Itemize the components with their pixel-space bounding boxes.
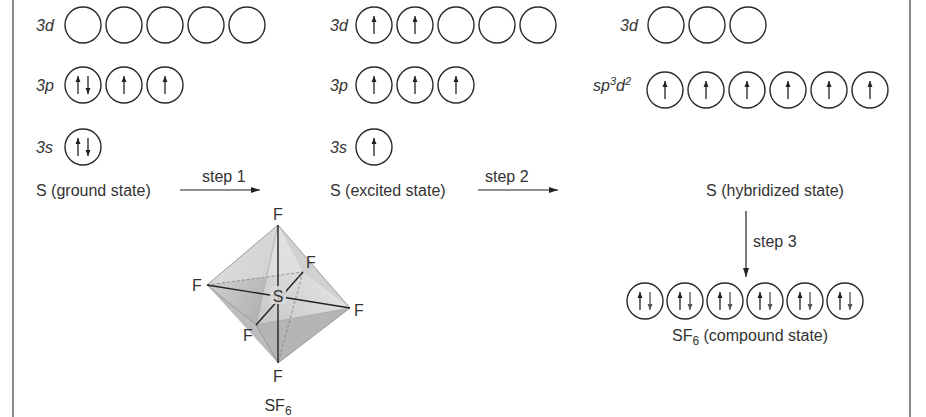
atom-fluorine-back: F [306,254,316,271]
orbital-box-empty [438,7,474,43]
orbital-box-up [647,72,683,108]
orbital-box-updown [65,67,101,103]
atom-fluorine-front: F [243,327,253,344]
orbital-box-updown [707,283,743,319]
orbital-box-empty [229,7,265,43]
orbital-box-updown [787,283,823,319]
orbital-label-3s: 3s [330,139,347,156]
atom-sulfur: S [273,288,284,305]
orbital-label-3s: 3s [36,139,53,156]
excited-orbitals [356,7,556,165]
orbital-label-sp3d2: sp3d2 [593,75,631,94]
ground-orbitals [65,7,265,165]
orbital-label-3d: 3d [36,17,55,34]
orbital-box-updown [65,129,101,165]
orbital-box-up [147,67,183,103]
orbital-box-updown [747,283,783,319]
atom-fluorine-bottom: F [273,368,283,385]
orbital-box-empty [730,7,766,43]
orbital-box-up [688,72,724,108]
orbital-box-empty [479,7,515,43]
orbital-label-3p: 3p [330,77,348,94]
orbital-box-updown [827,283,863,319]
orbital-label-3d: 3d [330,17,349,34]
orbital-box-updown [667,283,703,319]
orbital-box-empty [65,7,101,43]
step-1-label: step 1 [202,168,246,185]
compound-orbitals [627,283,863,319]
orbital-box-empty [520,7,556,43]
orbital-box-empty [689,7,725,43]
orbital-label-3d: 3d [620,17,639,34]
orbital-box-up [770,72,806,108]
state-label-hybridized: S (hybridized state) [706,182,844,199]
orbital-box-up [852,72,888,108]
orbital-box-empty [188,7,224,43]
orbital-box-empty [147,7,183,43]
state-label-ground: S (ground state) [36,182,151,199]
hybridized-orbitals [647,7,888,108]
excited-state-column: 3d 3p 3s S (excited state) step 2 [330,7,558,199]
orbital-box-up [356,67,392,103]
orbital-box-up [397,67,433,103]
step-3-label: step 3 [753,233,797,250]
sf6-octahedron: S F F F F F F SF6 [192,206,364,417]
compound-state-label: SF6 (compound state) [672,327,828,348]
ground-state-column: 3d 3p 3s S (ground state) step 1 [36,7,265,199]
compound-state: SF6 (compound state) [627,283,863,348]
hybridization-diagram: 3d 3p 3s S (ground state) step 1 3d 3p 3… [0,0,926,417]
orbital-box-up [729,72,765,108]
orbital-box-up [397,7,433,43]
orbital-box-up [106,67,142,103]
orbital-label-3p: 3p [36,77,54,94]
hybridized-state-column: 3d sp3d2 S (hybridized state) step 3 [593,7,888,277]
orbital-box-up [438,67,474,103]
atom-fluorine-right: F [354,302,364,319]
orbital-box-empty [106,7,142,43]
state-label-excited: S (excited state) [330,182,446,199]
orbital-box-up [356,129,392,165]
orbital-box-updown [627,283,663,319]
orbital-box-empty [648,7,684,43]
molecule-caption: SF6 [264,397,291,417]
step-2-label: step 2 [485,168,529,185]
orbital-box-up [356,7,392,43]
atom-fluorine-top: F [273,206,283,223]
orbital-box-up [811,72,847,108]
atom-fluorine-left: F [192,277,202,294]
